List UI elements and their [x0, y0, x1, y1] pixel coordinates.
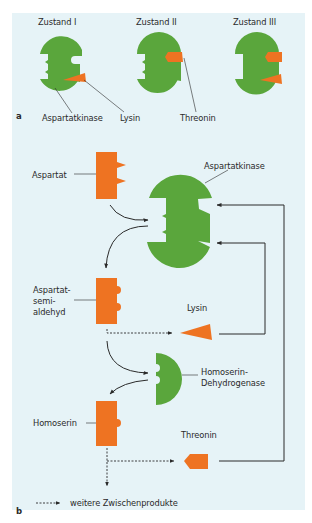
aspartat-label: Aspartat: [32, 170, 67, 180]
lysin-molecule-icon: [180, 324, 212, 340]
homoserin-dehydrogenase-label-line1: Homoserin-: [201, 367, 248, 377]
aspartatsemialdehyd-molecule-icon: [96, 278, 121, 324]
state-1-label: Zustand I: [38, 17, 76, 27]
aspartatsemialdehyd-label-line2: semi-: [33, 296, 55, 306]
legend-dashed-arrow-label: weitere Zwischenprodukte: [70, 498, 178, 508]
panel-a-letter: a: [16, 111, 22, 121]
aspartatkinase-label-a: Aspartatkinase: [42, 113, 103, 123]
lysin-label-a: Lysin: [120, 113, 140, 123]
lysin-label: Lysin: [187, 303, 207, 313]
diagram-graphics: [0, 0, 312, 523]
threonin-label-a: Threonin: [180, 113, 216, 123]
threonin-label: Threonin: [181, 430, 217, 440]
homoserin-dehydrogenase-enzyme-icon: [156, 353, 182, 405]
homoserin-label: Homoserin: [33, 418, 77, 428]
enzyme-state-1-icon: [40, 36, 86, 91]
aspartat-molecule-icon: [96, 152, 126, 199]
aspartatsemialdehyd-label-line1: Aspartat-: [33, 285, 70, 295]
homoserin-molecule-icon: [96, 401, 121, 446]
homoserin-dehydrogenase-label-line2: Dehydrogenase: [201, 378, 265, 388]
enzyme-state-3-icon: [235, 32, 282, 94]
state-2-label: Zustand II: [136, 17, 177, 27]
aspartatsemialdehyd-label-line3: aldehyd: [33, 307, 66, 317]
state-3-label: Zustand III: [233, 17, 276, 27]
aspartatkinase-label: Aspartatkinase: [204, 161, 265, 171]
panel-b-letter: b: [16, 506, 22, 516]
threonin-molecule-icon: [184, 454, 208, 469]
enzyme-state-2-icon: [137, 32, 183, 93]
aspartatkinase-enzyme-icon: [147, 175, 212, 268]
